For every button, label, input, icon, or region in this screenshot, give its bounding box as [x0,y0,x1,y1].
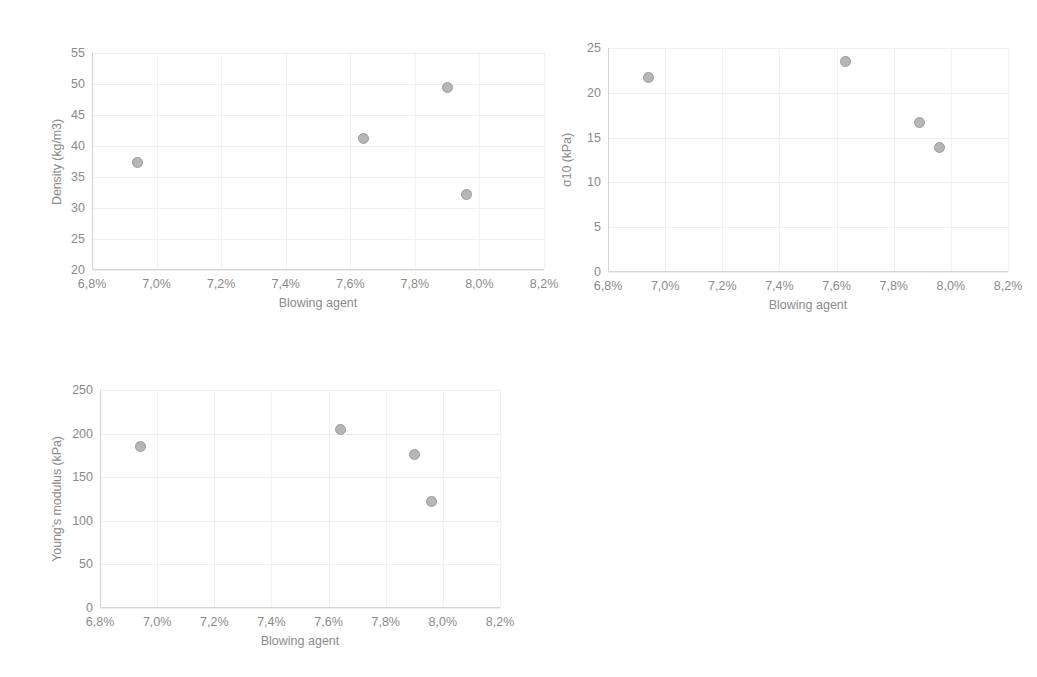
x-tick-label: 7,2% [207,277,236,291]
gridline-vertical [415,53,416,270]
y-tick-label: 20 [550,86,601,100]
x-tick-label: 7,0% [142,277,171,291]
chart-panel-sigma10: 0510152025σ10 (kPa)6,8%7,0%7,2%7,4%7,6%7… [550,30,1037,324]
gridline-horizontal [92,115,544,116]
x-axis-line [100,607,500,608]
x-axis-tick-labels: 6,8%7,0%7,2%7,4%7,6%7,8%8,0%8,2% [40,615,540,633]
x-axis-tick-labels: 6,8%7,0%7,2%7,4%7,6%7,8%8,0%8,2% [40,277,584,295]
gridline-horizontal [608,182,1008,183]
y-axis-line [100,390,101,608]
chart-panel-youngs-modulus: 050100150200250Young's modulus (kPa)6,8%… [40,370,540,660]
gridline-horizontal [608,227,1008,228]
x-tick-label: 8,0% [429,615,458,629]
gridline-vertical [221,53,222,270]
x-tick-label: 6,8% [594,279,623,293]
y-tick-label: 50 [40,557,93,571]
gridline-horizontal [608,272,1008,273]
gridline-horizontal [608,48,1008,49]
x-tick-label: 7,2% [200,615,229,629]
gridline-horizontal [92,239,544,240]
gridline-vertical [157,53,158,270]
gridline-vertical [665,48,666,272]
x-tick-label: 6,8% [86,615,115,629]
chart-panel-density: 2025303540455055Density (kg/m3)6,8%7,0%7… [40,30,584,322]
gridline-vertical [722,48,723,272]
x-tick-label: 7,4% [765,279,794,293]
x-tick-label: 8,2% [994,279,1023,293]
y-tick-label: 20 [40,263,85,277]
gridline-vertical [386,390,387,608]
x-tick-label: 7,8% [371,615,400,629]
gridline-horizontal [608,93,1008,94]
gridline-vertical [443,390,444,608]
y-tick-label: 55 [40,46,85,60]
data-point [840,56,851,67]
data-point [934,142,945,153]
x-tick-label: 7,4% [271,277,300,291]
y-axis-line [92,53,93,270]
gridline-vertical [286,53,287,270]
y-tick-label: 0 [40,601,93,615]
data-point [335,424,346,435]
y-tick-label: 0 [550,265,601,279]
gridline-vertical [544,53,545,270]
gridline-horizontal [100,521,500,522]
gridline-vertical [837,48,838,272]
y-axis-title: σ10 (kPa) [560,133,574,187]
gridline-vertical [214,390,215,608]
y-tick-label: 100 [40,514,93,528]
plot-area-sigma10 [608,48,1008,272]
gridline-horizontal [100,390,500,391]
x-tick-label: 7,6% [314,615,343,629]
gridline-horizontal [92,270,544,271]
gridline-horizontal [92,146,544,147]
gridline-vertical [329,390,330,608]
y-tick-label: 25 [40,232,85,246]
gridline-horizontal [92,84,544,85]
x-tick-label: 7,2% [708,279,737,293]
data-point [643,72,654,83]
data-point [426,496,437,507]
gridline-vertical [894,48,895,272]
plot-area-youngs-modulus [100,390,500,608]
x-tick-label: 7,6% [822,279,851,293]
x-tick-label: 7,0% [143,615,172,629]
x-tick-label: 8,0% [465,277,494,291]
y-tick-label: 15 [550,131,601,145]
y-tick-label: 25 [550,41,601,55]
x-tick-label: 7,0% [651,279,680,293]
y-tick-label: 5 [550,220,601,234]
y-tick-label: 50 [40,77,85,91]
plot-area-density [92,53,544,270]
data-point [442,82,453,93]
gridline-vertical [779,48,780,272]
x-tick-label: 8,0% [937,279,966,293]
x-tick-label: 7,6% [336,277,365,291]
x-tick-label: 6,8% [78,277,107,291]
gridline-horizontal [100,477,500,478]
x-axis-title: Blowing agent [279,296,358,310]
x-tick-label: 8,2% [486,615,515,629]
x-tick-label: 7,4% [257,615,286,629]
x-axis-tick-labels: 6,8%7,0%7,2%7,4%7,6%7,8%8,0%8,2% [550,279,1037,297]
x-axis-line [92,269,544,270]
data-point [461,189,472,200]
gridline-horizontal [92,177,544,178]
gridline-vertical [500,390,501,608]
y-axis-title: Density (kg/m3) [50,118,64,204]
data-point [358,133,369,144]
x-tick-label: 7,8% [879,279,908,293]
data-point [135,441,146,452]
gridline-horizontal [608,138,1008,139]
x-axis-title: Blowing agent [261,634,340,648]
gridline-vertical [1008,48,1009,272]
data-point [914,117,925,128]
gridline-horizontal [100,434,500,435]
gridline-horizontal [100,564,500,565]
gridline-vertical [350,53,351,270]
y-tick-label: 10 [550,175,601,189]
y-tick-label: 200 [40,427,93,441]
x-axis-title: Blowing agent [769,298,848,312]
y-axis-line [608,48,609,272]
gridline-horizontal [92,53,544,54]
